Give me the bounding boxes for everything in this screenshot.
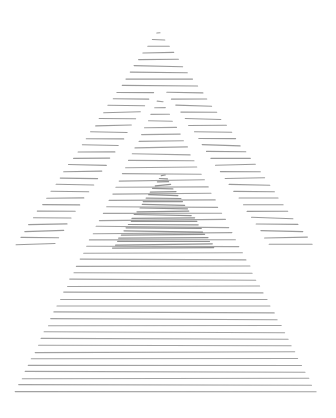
hatch-line xyxy=(25,230,64,231)
hatch-line xyxy=(93,233,232,234)
hatch-line xyxy=(60,178,97,179)
hatch-line xyxy=(140,208,187,209)
hatch-line xyxy=(119,180,204,181)
hatch-line xyxy=(35,352,295,353)
hatch-line xyxy=(132,218,195,219)
hatch-line xyxy=(265,237,308,238)
hatch-line xyxy=(29,224,67,225)
hatch-line xyxy=(96,226,229,227)
hatch-line xyxy=(150,192,176,193)
hatch-line xyxy=(68,286,260,287)
hatch-line xyxy=(116,244,213,245)
hatch-line xyxy=(109,200,215,201)
hatch-line xyxy=(113,193,211,194)
hatch-line xyxy=(195,132,232,133)
hatch-line xyxy=(126,167,197,168)
hatch-line xyxy=(16,244,55,245)
hatch-line xyxy=(261,231,303,232)
hatch-line xyxy=(139,141,183,142)
hatch-line xyxy=(107,207,218,208)
hatch-line xyxy=(126,228,201,229)
hatch-line xyxy=(121,234,204,235)
hatch-line xyxy=(122,85,197,86)
hatch-line xyxy=(44,332,285,333)
hatch-line xyxy=(185,119,221,120)
hatch-line xyxy=(153,188,173,189)
hatch-line xyxy=(202,145,240,146)
hatch-line xyxy=(119,238,208,239)
hatch-line xyxy=(22,378,309,379)
hatch-line xyxy=(167,92,203,93)
hatch-line xyxy=(41,338,288,339)
hatch-line xyxy=(51,319,277,320)
hatch-line xyxy=(51,191,89,192)
hatch-line xyxy=(64,171,102,172)
hatch-line xyxy=(19,385,312,386)
hatch-line xyxy=(69,165,107,166)
hatch-line xyxy=(70,279,256,280)
hatch-line xyxy=(252,217,293,218)
hatch-line xyxy=(134,66,183,67)
hatch-line xyxy=(152,40,164,41)
hatch-line xyxy=(64,292,263,293)
hatch-line xyxy=(113,248,214,249)
hatch-line xyxy=(99,219,225,220)
hatch-line xyxy=(137,211,189,212)
hatch-line xyxy=(80,259,246,260)
hatch-line xyxy=(229,184,270,185)
hatch-line xyxy=(149,195,178,196)
hatch-line xyxy=(104,112,141,113)
hatch-line xyxy=(74,273,252,274)
hatch-line xyxy=(155,184,170,185)
hatch-line xyxy=(176,105,212,106)
hatch-line xyxy=(124,231,203,232)
hatch-line xyxy=(142,204,184,205)
hatch-line xyxy=(157,101,163,102)
hatch-line xyxy=(108,105,145,106)
hatch-line xyxy=(161,175,165,176)
hatch-line xyxy=(216,164,256,165)
hatch-line xyxy=(132,154,190,155)
hatch-line xyxy=(142,134,181,135)
hatch-line xyxy=(149,121,173,122)
hatch-line xyxy=(135,147,187,148)
core-triangle-hatching xyxy=(113,175,214,248)
hatch-line xyxy=(91,132,128,133)
lower-triangle-hatching xyxy=(15,101,316,392)
hatch-line xyxy=(82,145,118,146)
hatch-line xyxy=(25,371,305,372)
hatch-line xyxy=(54,312,274,313)
hatch-line xyxy=(122,174,201,175)
hatched-triangles-artwork xyxy=(0,0,336,418)
hatch-line xyxy=(56,184,94,185)
hatch-line xyxy=(96,125,132,126)
hatch-line xyxy=(134,215,191,216)
hatch-line xyxy=(130,72,187,73)
hatch-line xyxy=(225,178,264,179)
hatch-line xyxy=(143,52,174,53)
hatch-line xyxy=(84,253,243,254)
